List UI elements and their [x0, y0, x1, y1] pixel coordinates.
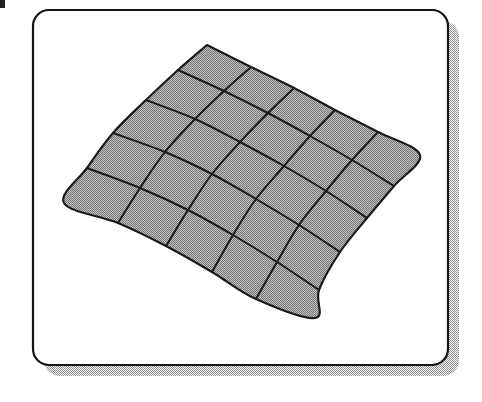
figure-canvas — [0, 0, 482, 402]
figure-illustration — [0, 0, 482, 402]
